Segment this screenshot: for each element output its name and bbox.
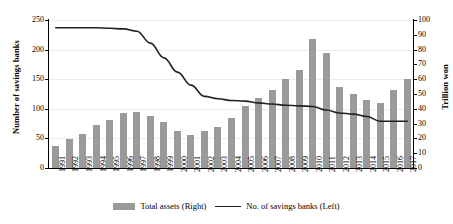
x-tick-label: 2009 xyxy=(302,156,310,172)
x-tick-label: 1994 xyxy=(100,156,108,172)
right-tick-mark xyxy=(414,94,417,95)
right-tick-label: 60 xyxy=(418,75,446,83)
right-tick-mark xyxy=(414,35,417,36)
left-tick-mark xyxy=(45,168,48,169)
right-tick-label: 50 xyxy=(418,90,446,98)
left-tick-label: 100 xyxy=(16,105,44,113)
left-tick-label: 50 xyxy=(16,134,44,142)
right-tick-mark xyxy=(414,79,417,80)
x-tick-label: 1992 xyxy=(72,156,80,172)
right-tick-mark xyxy=(414,20,417,21)
left-tick-label: 250 xyxy=(16,16,44,24)
x-tick-label: 1991 xyxy=(59,156,67,172)
left-tick-mark xyxy=(45,109,48,110)
right-tick-label: 90 xyxy=(418,31,446,39)
x-tick-label: 1999 xyxy=(167,156,175,172)
right-tick-label: 0 xyxy=(418,164,446,172)
x-tick-label: 2014 xyxy=(370,156,378,172)
x-tick-label: 1997 xyxy=(140,156,148,172)
x-tick-label: 2013 xyxy=(356,156,364,172)
plot-area xyxy=(49,20,414,168)
right-tick-mark xyxy=(414,124,417,125)
x-tick-label: 2011 xyxy=(329,156,337,172)
left-tick-label: 200 xyxy=(16,46,44,54)
right-tick-mark xyxy=(414,153,417,154)
x-tick-label: 1995 xyxy=(113,156,121,172)
x-tick-label: 1998 xyxy=(154,156,162,172)
chart-legend: Total assets (Right)No. of savings banks… xyxy=(0,199,453,213)
chart-container: Number of savings banks Trillion won 050… xyxy=(0,0,453,224)
right-tick-label: 10 xyxy=(418,149,446,157)
x-tick-label: 2002 xyxy=(208,156,216,172)
legend-label: No. of savings banks (Left) xyxy=(246,201,339,211)
right-tick-label: 70 xyxy=(418,60,446,68)
right-axis-title: Trillion won xyxy=(440,21,450,153)
left-tick-mark xyxy=(45,50,48,51)
x-tick-label: 2012 xyxy=(343,156,351,172)
legend-bar-swatch-icon xyxy=(113,203,135,210)
x-tick-label: 2001 xyxy=(194,156,202,172)
left-axis-title: Number of savings banks xyxy=(11,21,21,153)
x-tick-label: 2010 xyxy=(316,156,324,172)
right-tick-label: 30 xyxy=(418,120,446,128)
legend-label: Total assets (Right) xyxy=(140,201,206,211)
left-tick-label: 150 xyxy=(16,75,44,83)
legend-item: No. of savings banks (Left) xyxy=(215,201,339,211)
x-tick-label: 2015 xyxy=(383,156,391,172)
x-tick-label: 2004 xyxy=(235,156,243,172)
left-tick-mark xyxy=(45,20,48,21)
x-tick-label: 2008 xyxy=(289,156,297,172)
legend-line-swatch-icon xyxy=(215,206,241,207)
x-tick-label: 2006 xyxy=(262,156,270,172)
left-tick-label: 0 xyxy=(16,164,44,172)
right-tick-label: 40 xyxy=(418,105,446,113)
right-tick-label: 80 xyxy=(418,46,446,54)
right-tick-mark xyxy=(414,138,417,139)
x-tick-label: 2017 xyxy=(410,156,418,172)
right-tick-mark xyxy=(414,109,417,110)
x-tick-label: 2007 xyxy=(275,156,283,172)
right-tick-mark xyxy=(414,50,417,51)
x-tick-label: 2016 xyxy=(397,156,405,172)
line-series xyxy=(49,20,414,168)
legend-item: Total assets (Right) xyxy=(113,201,206,211)
x-tick-label: 2005 xyxy=(248,156,256,172)
right-tick-label: 20 xyxy=(418,134,446,142)
left-axis-line xyxy=(48,19,49,169)
x-tick-label: 1993 xyxy=(86,156,94,172)
x-tick-label: 1996 xyxy=(127,156,135,172)
right-tick-label: 100 xyxy=(418,16,446,24)
right-tick-mark xyxy=(414,64,417,65)
savings-banks-line xyxy=(56,28,407,122)
x-tick-label: 2003 xyxy=(221,156,229,172)
left-tick-mark xyxy=(45,138,48,139)
x-tick-label: 2000 xyxy=(181,156,189,172)
left-tick-mark xyxy=(45,79,48,80)
